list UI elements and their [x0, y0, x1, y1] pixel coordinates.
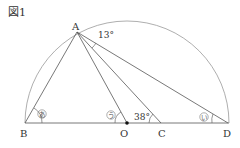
label-D: D: [223, 128, 231, 139]
angle-arc-D: [212, 114, 213, 123]
angle-label-13: 13°: [98, 30, 114, 40]
svg-text:い: い: [201, 114, 208, 122]
marker-a: あ: [38, 110, 46, 119]
center-point-O: [125, 121, 129, 125]
label-C: C: [158, 128, 166, 139]
svg-text:う: う: [108, 112, 115, 120]
segment-AB: [25, 32, 77, 123]
angle-arc-A: [92, 43, 96, 48]
segment-AD: [77, 32, 228, 123]
angle-label-38: 38°: [134, 112, 150, 122]
figure-title: 図1: [8, 6, 26, 19]
geometry-figure: 図1 A B O C D 13° 38° あ う い: [0, 0, 240, 148]
angle-arc-O: [115, 112, 121, 123]
marker-i: い: [200, 113, 208, 122]
segment-AC: [77, 32, 161, 123]
marker-u: う: [107, 111, 115, 120]
label-B: B: [20, 128, 27, 139]
semicircle: [25, 21, 229, 123]
label-A: A: [71, 21, 80, 32]
svg-text:あ: あ: [39, 111, 46, 119]
label-O: O: [120, 128, 128, 139]
